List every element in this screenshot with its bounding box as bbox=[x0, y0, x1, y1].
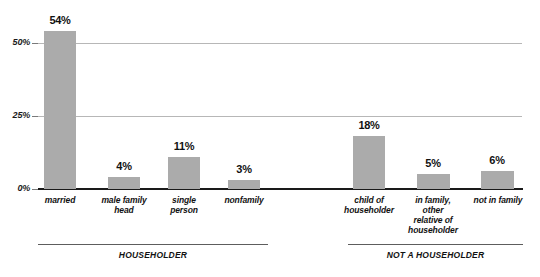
bar-chart: 50% 25% 0% 54% 4% 11% 3% 18% 5% 6% marri… bbox=[0, 0, 540, 277]
bar-single-person[interactable] bbox=[168, 157, 200, 189]
group-caption-not-a-householder: NOT A HOUSEHOLDER bbox=[348, 250, 523, 260]
ytick-label-25: 25% bbox=[0, 110, 30, 120]
group-caption-householder: HOUSEHOLDER bbox=[38, 250, 268, 260]
category-label-line: householder bbox=[397, 225, 469, 235]
bar-not-in-family[interactable] bbox=[481, 171, 514, 189]
bar-child-of-householder[interactable] bbox=[353, 136, 385, 189]
category-label-child-of-householder: child of householder bbox=[333, 195, 405, 215]
category-label-line: child of bbox=[333, 195, 405, 205]
category-label-line: person bbox=[148, 205, 220, 215]
category-label-married: married bbox=[24, 195, 96, 205]
group-rule-not-a-householder bbox=[348, 244, 523, 245]
category-label-line: married bbox=[24, 195, 96, 205]
ytick-mark-50 bbox=[32, 43, 38, 44]
bar-value-male-family-head: 4% bbox=[94, 160, 154, 172]
group-rule-householder bbox=[38, 244, 268, 245]
category-label-line: other bbox=[397, 205, 469, 215]
plot-area: 50% 25% 0% 54% 4% 11% 3% 18% 5% 6% bbox=[0, 0, 540, 200]
category-label-in-family-other-relative: in family, other relative of householder bbox=[397, 195, 469, 235]
bar-nonfamily[interactable] bbox=[228, 180, 260, 189]
ytick-label-0: 0% bbox=[0, 183, 30, 193]
category-label-line: relative of bbox=[397, 215, 469, 225]
category-label-not-in-family: not in family bbox=[461, 195, 535, 205]
bar-in-family-other-relative[interactable] bbox=[417, 174, 450, 189]
bar-value-not-in-family: 6% bbox=[467, 154, 527, 166]
category-label-line: not in family bbox=[461, 195, 535, 205]
gridline-25 bbox=[38, 116, 522, 117]
category-label-line: nonfamily bbox=[208, 195, 280, 205]
bar-value-married: 54% bbox=[30, 14, 90, 26]
bar-value-child-of-householder: 18% bbox=[339, 119, 399, 131]
bar-value-single-person: 11% bbox=[154, 140, 214, 152]
bar-male-family-head[interactable] bbox=[108, 177, 140, 189]
category-label-line: in family, bbox=[397, 195, 469, 205]
bar-value-nonfamily: 3% bbox=[214, 163, 274, 175]
category-label-line: householder bbox=[333, 205, 405, 215]
ytick-label-50: 50% bbox=[0, 37, 30, 47]
category-label-nonfamily: nonfamily bbox=[208, 195, 280, 205]
ytick-mark-25 bbox=[32, 116, 38, 117]
gridline-50 bbox=[38, 43, 522, 44]
bar-value-in-family-other-relative: 5% bbox=[403, 157, 463, 169]
bar-married[interactable] bbox=[44, 31, 76, 189]
